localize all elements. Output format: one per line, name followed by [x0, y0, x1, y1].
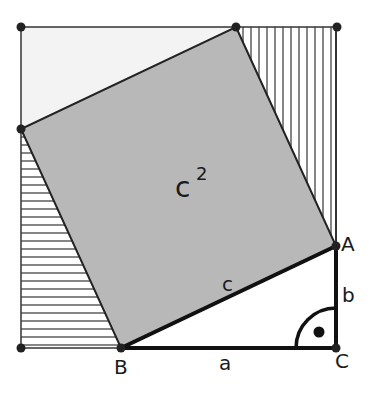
- vertex-A-label: A: [341, 232, 355, 256]
- area-label: c: [175, 171, 190, 204]
- pythagoras-diagram: c 2 c a b A B C: [0, 0, 372, 393]
- vertex-B-label: B: [114, 355, 128, 379]
- leg-b-label: b: [342, 283, 355, 307]
- vertex-dot: [117, 344, 126, 353]
- vertex-dot: [333, 23, 342, 32]
- vertex-C-label: C: [335, 349, 349, 373]
- area-exponent: 2: [196, 163, 207, 184]
- leg-a-label: a: [219, 351, 231, 375]
- vertex-dot: [17, 344, 26, 353]
- vertex-dot: [17, 23, 26, 32]
- vertex-dot: [232, 23, 241, 32]
- vertex-dot: [332, 242, 341, 251]
- right-angle-dot-icon: [314, 327, 325, 338]
- hypotenuse-label: c: [222, 272, 233, 296]
- vertex-dot: [17, 125, 26, 134]
